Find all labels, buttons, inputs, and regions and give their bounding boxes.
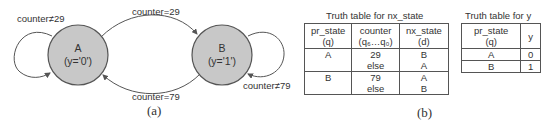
cell-nx-state: BA bbox=[399, 49, 448, 72]
state-b-label: B (y='1') bbox=[192, 42, 252, 68]
table-row: A 29else BA bbox=[305, 49, 449, 72]
cell-pr-state: A bbox=[462, 49, 521, 61]
transition-label-a-self: counter≠29 bbox=[17, 13, 64, 24]
state-b-output: (y='1') bbox=[192, 55, 252, 68]
table-header-row: pr_state(q) y bbox=[462, 24, 541, 49]
table-row: B 1 bbox=[462, 61, 541, 73]
state-a-output: (y='0') bbox=[48, 55, 108, 68]
header-pr-state: pr_state(q) bbox=[462, 24, 521, 49]
cell-y: 1 bbox=[521, 61, 541, 73]
self-loop-b bbox=[248, 32, 284, 77]
cell-y: 0 bbox=[521, 49, 541, 61]
transition-a-to-b bbox=[101, 15, 197, 37]
nx-state-truth-table: pr_state(q) counter(q₆…q₀) nx_state(d) A… bbox=[304, 23, 449, 95]
state-b-name: B bbox=[192, 42, 252, 55]
state-a-label: A (y='0') bbox=[48, 42, 108, 68]
y-truth-table: pr_state(q) y A 0 B 1 bbox=[461, 23, 541, 73]
table-header-row: pr_state(q) counter(q₆…q₀) nx_state(d) bbox=[305, 24, 449, 49]
transition-label-a-to-b: counter=29 bbox=[132, 6, 180, 17]
cell-pr-state: B bbox=[305, 72, 352, 95]
table-row: A 0 bbox=[462, 49, 541, 61]
cell-counter: 79else bbox=[352, 72, 399, 95]
self-loop-a bbox=[14, 32, 52, 77]
cell-pr-state: B bbox=[462, 61, 521, 73]
header-nx-state: nx_state(d) bbox=[399, 24, 448, 49]
cell-nx-state: AB bbox=[399, 72, 448, 95]
header-y: y bbox=[521, 24, 541, 49]
cell-counter: 29else bbox=[352, 49, 399, 72]
y-table-title: Truth table for y bbox=[465, 10, 531, 21]
header-counter: counter(q₆…q₀) bbox=[352, 24, 399, 49]
nx-table-title: Truth table for nx_state bbox=[326, 10, 423, 21]
caption-a: (a) bbox=[147, 103, 161, 119]
transition-label-b-to-a: counter=79 bbox=[132, 91, 180, 102]
cell-pr-state: A bbox=[305, 49, 352, 72]
header-pr-state: pr_state(q) bbox=[305, 24, 352, 49]
transition-label-b-self: counter≠79 bbox=[243, 80, 290, 91]
state-a-name: A bbox=[48, 42, 108, 55]
table-row: B 79else AB bbox=[305, 72, 449, 95]
caption-b: (b) bbox=[417, 105, 432, 121]
